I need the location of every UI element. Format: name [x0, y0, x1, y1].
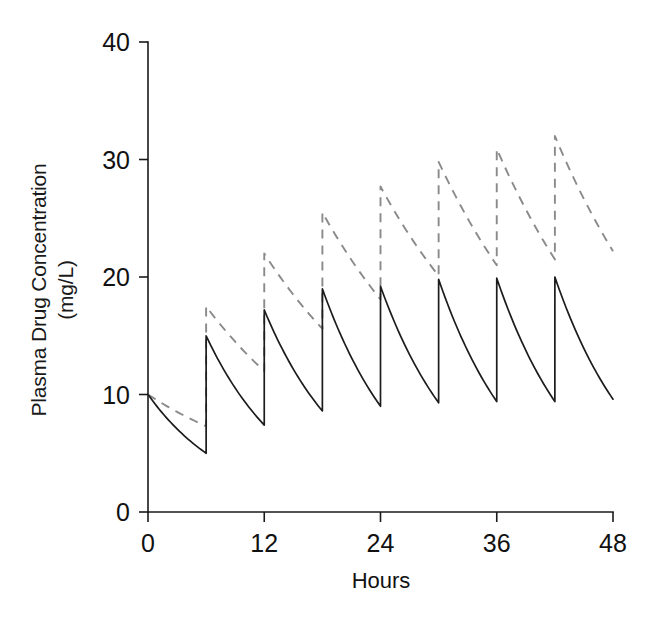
x-axis-title: Hours — [352, 568, 411, 593]
x-tick-label: 0 — [141, 529, 155, 557]
y-tick-label: 20 — [102, 263, 130, 291]
x-tick-label: 24 — [367, 529, 395, 557]
chart-figure: 010203040 012243648 Plasma Drug Concentr… — [0, 0, 657, 617]
y-tick-label: 30 — [102, 146, 130, 174]
plasma-drug-concentration-chart: 010203040 012243648 Plasma Drug Concentr… — [0, 0, 657, 617]
y-axis-title-line2: (mg/L) — [54, 260, 77, 319]
y-tick-label: 40 — [102, 28, 130, 56]
x-tick-label: 12 — [250, 529, 278, 557]
x-tick-label: 48 — [599, 529, 627, 557]
y-tick-label: 0 — [116, 498, 130, 526]
chart-background — [0, 0, 657, 617]
x-tick-label: 36 — [483, 529, 511, 557]
y-tick-label: 10 — [102, 381, 130, 409]
y-axis-title-line1: Plasma Drug Concentration — [27, 164, 50, 417]
